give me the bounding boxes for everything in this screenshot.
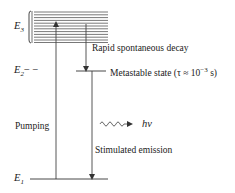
- e2-label: E2− −: [14, 65, 38, 78]
- e1-label: E1: [14, 173, 24, 186]
- e3-bracket: [29, 11, 31, 43]
- stimulated-emission-label: Stimulated emission: [95, 146, 172, 156]
- metastable-label: Metastable state (τ ≈ 10−3 s): [110, 67, 217, 79]
- e3-label: E3: [14, 21, 24, 34]
- pumping-label: Pumping: [15, 122, 49, 132]
- photon-label: hν: [142, 119, 152, 130]
- e3-band: [34, 12, 108, 43]
- decay-label: Rapid spontaneous decay: [92, 44, 189, 54]
- energy-diagram: [0, 0, 235, 193]
- photon-wave-icon: [100, 122, 130, 126]
